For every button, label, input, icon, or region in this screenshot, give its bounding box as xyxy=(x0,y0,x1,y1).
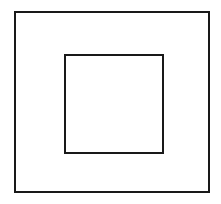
inner-square xyxy=(64,54,164,154)
figure-canvas: Nested squares line drawing xyxy=(0,0,221,204)
